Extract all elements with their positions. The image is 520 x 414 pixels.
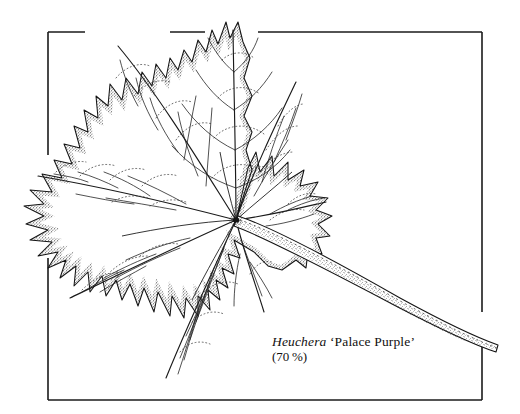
- cultivar-name: ‘Palace Purple’: [330, 334, 415, 349]
- leaf-blade: [24, 22, 332, 378]
- petiole: [234, 216, 498, 352]
- vein-convergence-node: [229, 215, 243, 226]
- botanical-plate: Heuchera ‘Palace Purple’ (70 %): [0, 0, 520, 414]
- caption-name-line: Heuchera ‘Palace Purple’: [272, 334, 415, 349]
- scale-annotation: (70 %): [272, 349, 415, 364]
- genus-name: Heuchera: [272, 334, 326, 349]
- caption: Heuchera ‘Palace Purple’ (70 %): [272, 334, 415, 364]
- leaf-illustration: [0, 0, 520, 414]
